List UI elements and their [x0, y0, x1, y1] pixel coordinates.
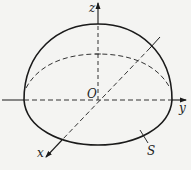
surface-label: S [147, 144, 155, 158]
front-equator [24, 100, 172, 145]
x-axis [46, 140, 62, 157]
x-axis-label: x [37, 146, 44, 160]
diagram-canvas: z y x O S [0, 0, 191, 170]
x-axis-dashed [62, 48, 150, 140]
z-axis-label: z [88, 1, 96, 15]
y-axis-label: y [178, 101, 186, 115]
hemisphere-diagram: z y x O S [0, 0, 191, 170]
origin-label: O [87, 87, 97, 101]
